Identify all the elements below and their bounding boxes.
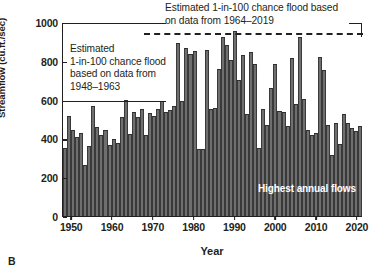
left-annotation-text: Estimated 1-in-100 chance flood based on… [70, 43, 200, 93]
y-axis-title: Streamflow (cu.ft./sec) [0, 18, 7, 118]
y-tick-600: 600 [41, 95, 63, 107]
x-axis-title: Year [62, 245, 362, 257]
x-tick-2010: 2010 [305, 216, 328, 233]
panel-letter: B [8, 255, 16, 267]
left-annotation-line-3: based on data from [70, 68, 200, 81]
left-annotation-line-2: 1-in-100 chance flood [70, 56, 200, 69]
reference-line-1964-2019 [144, 33, 363, 35]
figure-panel-b: Estimated 1-in-100 chance flood based on… [0, 0, 389, 277]
y-tick-1000: 1000 [35, 17, 63, 29]
reference-line-1948-1963 [63, 101, 166, 103]
x-tick-1980: 1980 [182, 216, 205, 233]
series-label-highest-annual-flows: Highest annual flows [258, 183, 356, 194]
x-tick-1950: 1950 [60, 216, 83, 233]
x-tick-1990: 1990 [223, 216, 246, 233]
y-tick-200: 200 [41, 172, 63, 184]
top-annotation-line-1: Estimated 1-in-100 chance flood based [165, 2, 380, 15]
left-annotation-line-4: 1948–1963 [70, 81, 200, 94]
x-tick-1970: 1970 [142, 216, 165, 233]
x-tick-2000: 2000 [264, 216, 287, 233]
y-tick-400: 400 [41, 133, 63, 145]
x-tick-1960: 1960 [101, 216, 124, 233]
y-tick-800: 800 [41, 56, 63, 68]
left-annotation-line-1: Estimated [70, 43, 200, 56]
bar-2021 [358, 126, 362, 216]
x-tick-2020: 2020 [346, 216, 369, 233]
